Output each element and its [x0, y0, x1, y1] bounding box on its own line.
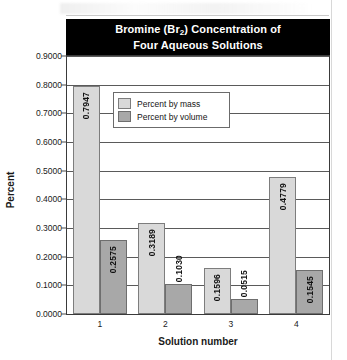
- chart-title-part1: Bromine (Br: [115, 23, 180, 35]
- x-tick-label: 2: [163, 319, 168, 329]
- bar-volume-solution-1: 0.2575: [100, 240, 127, 314]
- bar-value-label: 0.4779: [278, 183, 288, 210]
- y-tick-mark: [61, 84, 66, 85]
- y-tick-label: 0.8000: [10, 80, 62, 90]
- y-tick-mark: [61, 256, 66, 257]
- chart-title-banner: Bromine (Br2) Concentration of Four Aque…: [66, 19, 330, 55]
- y-tick-label: 0.6000: [10, 137, 62, 147]
- bar-mass-solution-3: 0.1596: [204, 268, 231, 314]
- bar-value-label: 0.7947: [81, 92, 91, 119]
- bar-value-label: 0.1545: [305, 276, 315, 303]
- bar-value-label: 0.2575: [108, 246, 118, 273]
- chart-title-part2: ) Concentration of: [184, 23, 281, 35]
- legend-item-volume: Percent by volume: [118, 110, 224, 123]
- y-tick-mark: [61, 142, 66, 143]
- y-tick-mark: [61, 228, 66, 229]
- y-tick-label: 0.5000: [10, 166, 62, 176]
- gridline: [67, 56, 329, 57]
- bar-value-label: 0.3189: [147, 229, 157, 256]
- y-tick-mark: [61, 314, 66, 315]
- chart-title-subscript: 2: [180, 28, 185, 37]
- bar-value-label: 0.1030: [174, 255, 184, 282]
- bar-mass-solution-4: 0.4779: [269, 177, 296, 314]
- gridline: [67, 85, 329, 86]
- y-tick-label: 0.4000: [10, 194, 62, 204]
- gridline: [67, 171, 329, 172]
- x-tick-label: 1: [97, 319, 102, 329]
- bar-volume-solution-3: 0.0515: [231, 299, 258, 314]
- y-tick-label: 0.7000: [10, 108, 62, 118]
- y-tick-label: 0.0000: [10, 309, 62, 319]
- legend-label-volume: Percent by volume: [137, 112, 207, 122]
- y-tick-label: 0.3000: [10, 223, 62, 233]
- y-tick-mark: [61, 56, 66, 57]
- bar-volume-solution-4: 0.1545: [296, 270, 323, 314]
- y-tick-mark: [61, 170, 66, 171]
- gridline: [67, 142, 329, 143]
- x-tick-label: 3: [228, 319, 233, 329]
- bar-value-label: 0.1596: [212, 274, 222, 301]
- bar-mass-solution-1: 0.7947: [73, 86, 100, 314]
- chart-title-line2: Four Aqueous Solutions: [133, 39, 263, 51]
- y-tick-label: 0.9000: [10, 51, 62, 61]
- y-tick-label: 0.1000: [10, 280, 62, 290]
- legend-swatch-mass: [118, 98, 131, 109]
- y-tick-mark: [61, 199, 66, 200]
- bar-chart-figure: Bromine (Br2) Concentration of Four Aque…: [0, 0, 347, 360]
- legend-label-mass: Percent by mass: [137, 99, 200, 109]
- legend-item-mass: Percent by mass: [118, 97, 224, 110]
- x-tick-label: 4: [294, 319, 299, 329]
- bar-volume-solution-2: 0.1030: [165, 284, 192, 314]
- x-axis-title: Solution number: [66, 336, 330, 347]
- y-tick-mark: [61, 113, 66, 114]
- y-tick-label: 0.2000: [10, 252, 62, 262]
- chart-title: Bromine (Br2) Concentration of Four Aque…: [109, 22, 287, 52]
- bar-value-label: 0.0515: [239, 270, 249, 297]
- legend-swatch-volume: [118, 111, 131, 122]
- y-tick-mark: [61, 285, 66, 286]
- bar-mass-solution-2: 0.3189: [138, 223, 165, 314]
- chart-legend: Percent by mass Percent by volume: [113, 92, 230, 128]
